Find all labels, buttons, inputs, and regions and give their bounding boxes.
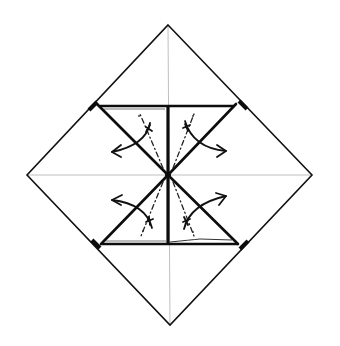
notch-lower-right [240, 241, 248, 249]
flap-edge-upper-right [168, 104, 236, 175]
origami-diagram [0, 0, 340, 346]
lower-flap-band [102, 239, 238, 244]
flap-edge-upper-left [97, 104, 168, 175]
center-point [165, 172, 171, 178]
notch-upper-left [89, 102, 97, 110]
notch-upper-right [239, 101, 247, 109]
flap-edge-lower-right [168, 175, 238, 244]
diagram-svg [0, 0, 340, 346]
flap-edge-lower-left [101, 175, 168, 244]
notch-lower-left [92, 240, 100, 248]
